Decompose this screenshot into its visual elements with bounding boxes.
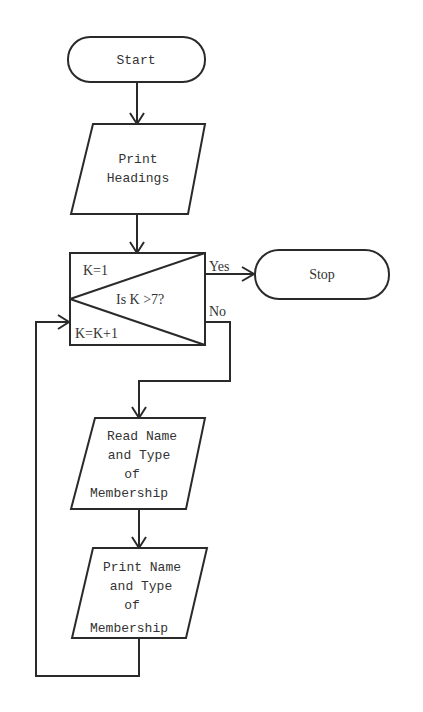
read-line3: of <box>124 467 140 482</box>
print-headings-io: Print Headings <box>71 124 205 214</box>
print-line1: Print Name <box>103 560 181 575</box>
loop-decision-box: K=1 Is K >7? K=K+1 <box>70 253 205 345</box>
arrow-start-to-headings <box>130 82 144 124</box>
decision-question: Is K >7? <box>116 292 164 307</box>
print-headings-line1: Print <box>118 152 157 167</box>
start-terminal: Start <box>68 37 205 82</box>
flowchart: Start Print Headings K=1 Is K >7? K=K+1 … <box>0 0 423 712</box>
loop-init-label: K=1 <box>83 263 108 278</box>
read-line2: and Type <box>108 448 170 463</box>
print-headings-line2: Headings <box>107 171 169 186</box>
print-line3: of <box>124 598 140 613</box>
print-name-io: Print Name and Type of Membership <box>72 548 207 638</box>
stop-label: Stop <box>309 267 335 282</box>
print-line2: and Type <box>110 579 172 594</box>
print-line4: Membership <box>90 621 168 636</box>
arrow-headings-to-decision <box>130 214 144 253</box>
yes-label: Yes <box>209 259 229 274</box>
read-line4: Membership <box>90 486 168 501</box>
loop-increment-label: K=K+1 <box>75 326 118 341</box>
read-line1: Read Name <box>107 429 177 444</box>
start-label: Start <box>116 53 155 68</box>
arrow-read-to-print <box>132 509 146 548</box>
read-name-io: Read Name and Type of Membership <box>71 418 205 509</box>
no-label: No <box>209 304 226 319</box>
yes-branch: Yes <box>205 259 255 281</box>
stop-terminal: Stop <box>255 250 389 299</box>
